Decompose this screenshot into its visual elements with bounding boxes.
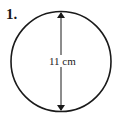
problem-number: 1. xyxy=(6,7,17,22)
diameter-label: 11 cm xyxy=(48,55,77,67)
circle-diagram: 1. 11 cm xyxy=(0,0,116,125)
